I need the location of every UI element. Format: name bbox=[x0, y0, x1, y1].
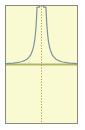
chart-title bbox=[0, 0, 1, 1]
figure-container: Symmetric curve with a vertical asymptot… bbox=[0, 0, 85, 130]
plot-area bbox=[6, 6, 77, 123]
x-axis-label bbox=[0, 0, 1, 1]
series-label: y = 1/x^2 (clipped) bbox=[0, 0, 1, 1]
figure-description: Symmetric curve with a vertical asymptot… bbox=[0, 0, 1, 1]
plot-frame bbox=[5, 5, 78, 124]
plot-svg bbox=[6, 6, 77, 123]
y-axis-label bbox=[0, 0, 1, 1]
